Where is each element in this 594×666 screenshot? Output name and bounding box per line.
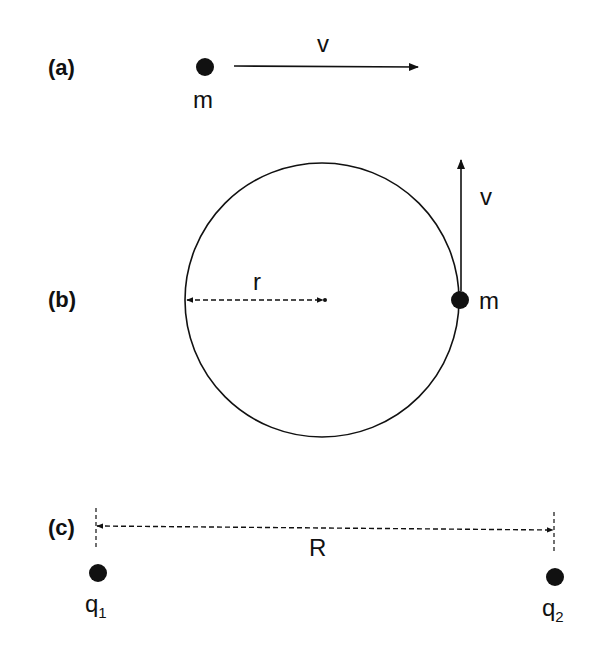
point-mass [196,58,214,76]
panel-b-label: (b) [48,287,76,312]
distance-dimension [97,526,553,530]
velocity-label: v [480,183,492,210]
mass-label: m [193,86,213,113]
charge1-label: q1 [85,590,107,621]
radius-label: r [253,268,261,295]
panel-c-label: (c) [48,515,75,540]
panel-a-label: (a) [48,55,75,80]
point-mass [451,291,469,309]
charge-q2 [546,568,564,586]
panel-b: (b) r m v [48,160,499,437]
physics-diagram: (a) m v (b) r m v (c) R q1 q2 [0,0,594,666]
circular-orbit [185,163,459,437]
distance-label: R [309,534,326,561]
charge2-label: q2 [542,594,564,625]
panel-a: (a) m v [48,30,418,113]
velocity-label: v [317,30,329,57]
mass-label: m [479,287,499,314]
center-point [323,298,327,302]
charge-q1 [89,564,107,582]
velocity-arrow [234,66,418,67]
panel-c: (c) R q1 q2 [48,508,564,625]
